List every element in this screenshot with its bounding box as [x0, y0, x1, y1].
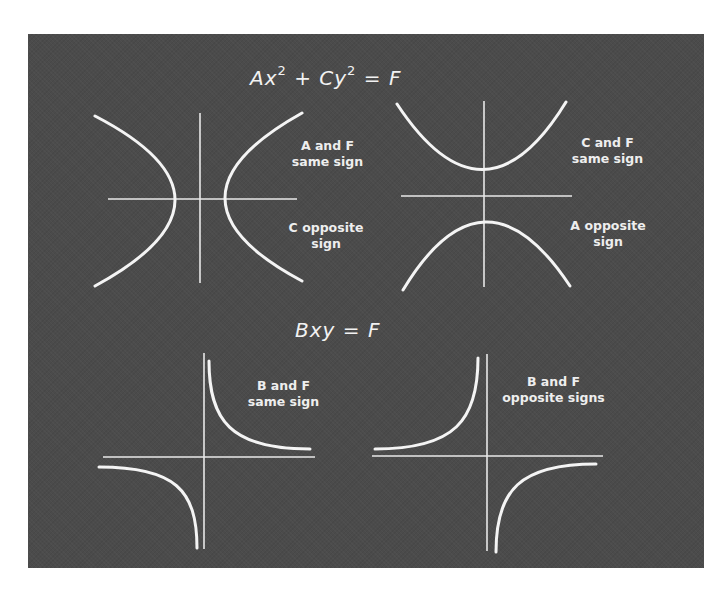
plot-horizontal-hyperbola	[95, 113, 302, 286]
lower-branch	[403, 222, 570, 290]
quadrant-4-branch	[496, 464, 596, 552]
const-f: F	[368, 318, 381, 342]
label-a-f-same-sign: A and F same sign	[280, 138, 375, 170]
equation-rectangular: Bxy = F	[295, 318, 380, 342]
exponent: 2	[347, 63, 356, 78]
label-a-opposite-sign: A opposite sign	[558, 218, 658, 250]
label-c-opposite-sign: C opposite sign	[276, 220, 376, 252]
exponent: 2	[278, 63, 287, 78]
upper-branch	[397, 102, 566, 170]
equals-sign: =	[343, 318, 361, 342]
quadrant-3-branch	[99, 467, 197, 548]
var-xy: xy	[310, 318, 336, 342]
quadrant-2-branch	[375, 358, 478, 449]
coef-c: C	[319, 66, 334, 90]
plus-sign: +	[294, 66, 312, 90]
var-x: x	[265, 66, 278, 90]
label-c-f-same-sign: C and F same sign	[560, 135, 655, 167]
var-y: y	[334, 66, 347, 90]
plot-vertical-hyperbola	[397, 101, 572, 290]
label-b-f-same-sign: B and F same sign	[236, 378, 331, 410]
label-b-f-opposite-signs: B and F opposite signs	[496, 374, 611, 406]
coef-a: A	[250, 66, 265, 90]
coef-b: B	[295, 318, 310, 342]
equals-sign: =	[364, 66, 382, 90]
equation-general-conic: Ax2 + Cy2 = F	[250, 65, 401, 90]
left-branch	[95, 116, 175, 286]
const-f: F	[389, 66, 402, 90]
